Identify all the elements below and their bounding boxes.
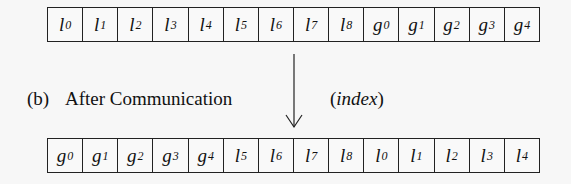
arrow-label: (index) xyxy=(330,88,384,110)
after-communication-array: g0 g1 g2 g3 g4 l5 l6 l7 l8 l0 l1 l2 l3 l… xyxy=(47,138,540,173)
array-cell: g0 xyxy=(364,8,399,41)
array-cell: l2 xyxy=(435,139,470,172)
array-cell: l6 xyxy=(259,139,294,172)
array-cell: g2 xyxy=(118,139,153,172)
caption-marker: (b) xyxy=(27,88,49,110)
array-cell: l3 xyxy=(153,8,188,41)
array-cell: g1 xyxy=(399,8,434,41)
array-cell: g3 xyxy=(470,8,505,41)
array-cell: l6 xyxy=(259,8,294,41)
array-cell: g3 xyxy=(153,139,188,172)
array-cell: g4 xyxy=(189,139,224,172)
array-cell: g4 xyxy=(505,8,539,41)
array-cell: l8 xyxy=(329,8,364,41)
array-cell: l1 xyxy=(83,8,118,41)
array-cell: l0 xyxy=(48,8,83,41)
array-cell: l5 xyxy=(224,139,259,172)
array-cell: g1 xyxy=(83,139,118,172)
array-cell: l0 xyxy=(364,139,399,172)
array-cell: l7 xyxy=(294,139,329,172)
array-cell: l3 xyxy=(470,139,505,172)
down-arrow-icon xyxy=(284,54,304,129)
array-cell: l7 xyxy=(294,8,329,41)
array-cell: l1 xyxy=(399,139,434,172)
before-communication-array: l0 l1 l2 l3 l4 l5 l6 l7 l8 g0 g1 g2 g3 g… xyxy=(47,7,540,42)
array-cell: g2 xyxy=(435,8,470,41)
array-cell: l4 xyxy=(189,8,224,41)
array-cell: l2 xyxy=(118,8,153,41)
array-cell: l4 xyxy=(505,139,539,172)
array-cell: g0 xyxy=(48,139,83,172)
array-cell: l5 xyxy=(224,8,259,41)
array-cell: l8 xyxy=(329,139,364,172)
caption-title: After Communication xyxy=(65,88,232,110)
